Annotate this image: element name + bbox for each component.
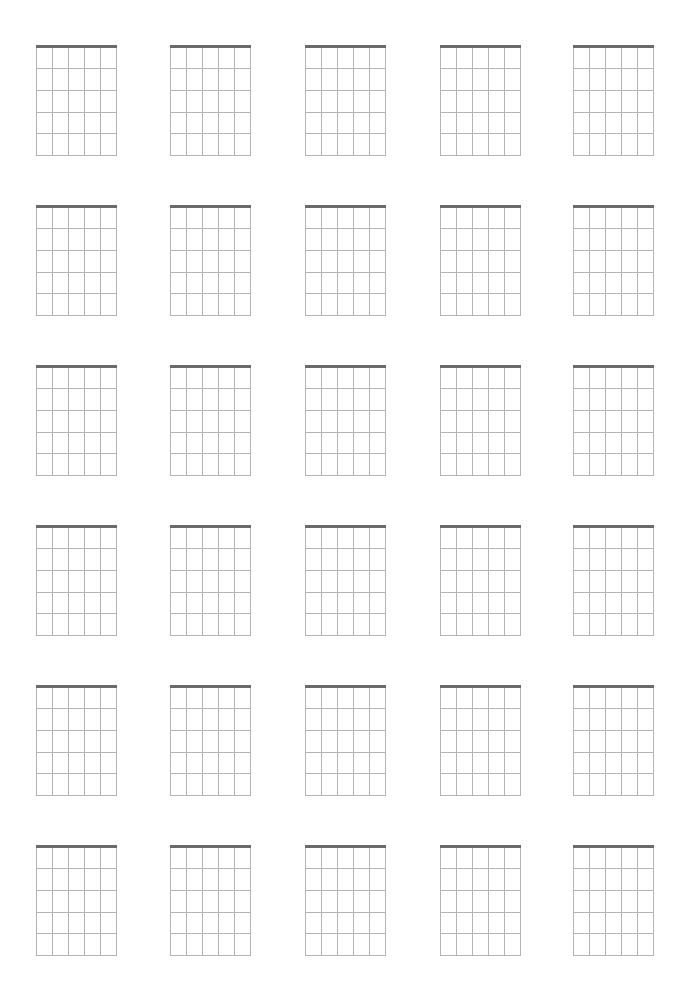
nut <box>36 45 117 48</box>
chord-diagram-r2-c5 <box>573 207 654 316</box>
chord-diagram-r3-c2 <box>170 367 251 476</box>
nut <box>170 525 251 528</box>
chord-diagram-r1-c2 <box>170 47 251 156</box>
chord-diagram-r5-c2 <box>170 687 251 796</box>
chord-diagram-r1-c3 <box>305 47 386 156</box>
nut <box>305 205 386 208</box>
chord-diagram-r4-c1 <box>36 527 117 636</box>
nut <box>170 365 251 368</box>
chord-diagram-r6-c2 <box>170 847 251 956</box>
nut <box>573 45 654 48</box>
chord-diagram-r4-c2 <box>170 527 251 636</box>
chord-diagram-r1-c5 <box>573 47 654 156</box>
nut <box>305 845 386 848</box>
nut <box>440 685 521 688</box>
nut <box>573 205 654 208</box>
nut <box>36 525 117 528</box>
chord-diagram-r1-c4 <box>440 47 521 156</box>
nut <box>440 365 521 368</box>
nut <box>170 45 251 48</box>
nut <box>36 365 117 368</box>
nut <box>573 685 654 688</box>
nut <box>36 685 117 688</box>
nut <box>305 365 386 368</box>
nut <box>440 845 521 848</box>
nut <box>440 525 521 528</box>
chord-diagram-r5-c4 <box>440 687 521 796</box>
chord-diagram-r2-c4 <box>440 207 521 316</box>
nut <box>170 205 251 208</box>
chord-diagram-r6-c3 <box>305 847 386 956</box>
chord-diagram-r2-c3 <box>305 207 386 316</box>
chord-diagram-r6-c5 <box>573 847 654 956</box>
nut <box>305 45 386 48</box>
chord-diagram-r4-c4 <box>440 527 521 636</box>
chord-diagram-r3-c5 <box>573 367 654 476</box>
chord-diagram-r4-c5 <box>573 527 654 636</box>
chord-diagram-r3-c4 <box>440 367 521 476</box>
chord-diagram-r5-c3 <box>305 687 386 796</box>
chord-diagram-r6-c4 <box>440 847 521 956</box>
chord-diagram-r5-c5 <box>573 687 654 796</box>
chord-diagram-r2-c1 <box>36 207 117 316</box>
nut <box>573 845 654 848</box>
chord-diagram-r5-c1 <box>36 687 117 796</box>
nut <box>573 365 654 368</box>
chord-diagram-r1-c1 <box>36 47 117 156</box>
nut <box>170 685 251 688</box>
chord-diagram-r4-c3 <box>305 527 386 636</box>
nut <box>36 205 117 208</box>
nut <box>440 45 521 48</box>
chord-diagram-r3-c3 <box>305 367 386 476</box>
nut <box>36 845 117 848</box>
chord-diagram-r3-c1 <box>36 367 117 476</box>
chord-sheet <box>0 0 690 1003</box>
nut <box>573 525 654 528</box>
chord-diagram-r2-c2 <box>170 207 251 316</box>
nut <box>440 205 521 208</box>
chord-diagram-r6-c1 <box>36 847 117 956</box>
nut <box>170 845 251 848</box>
nut <box>305 685 386 688</box>
nut <box>305 525 386 528</box>
